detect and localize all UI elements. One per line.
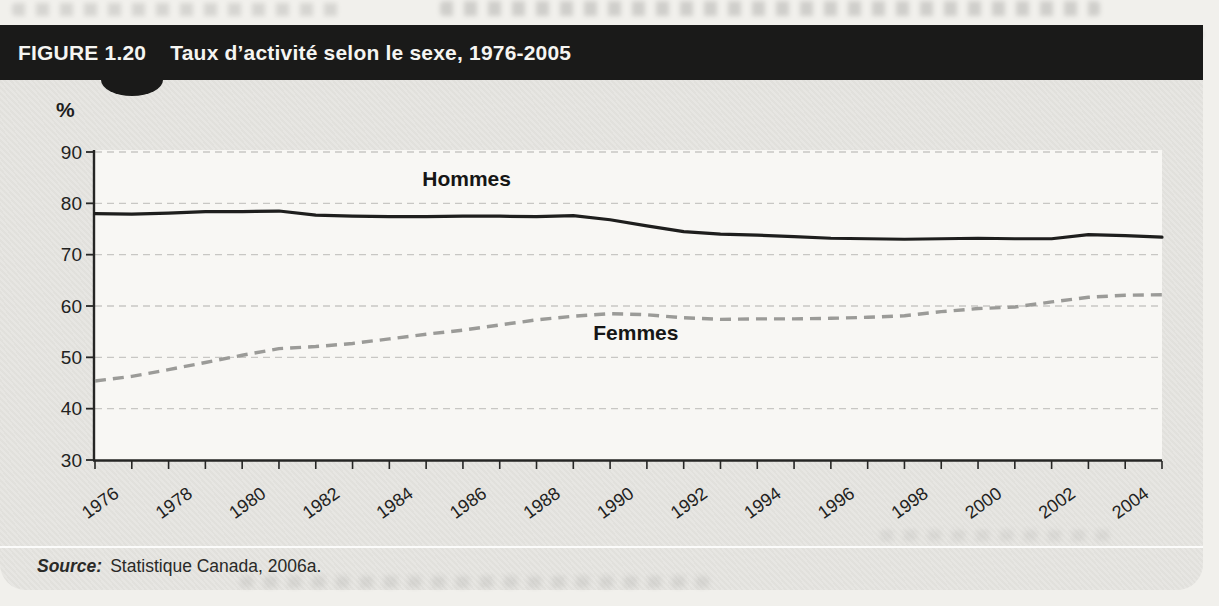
svg-text:1990: 1990	[593, 483, 637, 523]
svg-text:1980: 1980	[225, 483, 269, 523]
activity-rate-chart: 3040506070809019761978198019821984198619…	[0, 90, 1203, 530]
figure-header-bar: FIGURE 1.20 Taux d’activité selon le sex…	[0, 25, 1203, 80]
svg-text:2002: 2002	[1035, 483, 1079, 523]
scan-artifact	[12, 3, 342, 16]
panel-separator	[0, 546, 1203, 548]
svg-text:1982: 1982	[299, 483, 343, 523]
svg-text:1996: 1996	[814, 483, 858, 523]
figure-title: Taux d’activité selon le sexe, 1976-2005	[170, 41, 571, 65]
svg-text:Hommes: Hommes	[422, 167, 511, 190]
figure-number: FIGURE 1.20	[18, 41, 146, 65]
source-text: Statistique Canada, 2006a.	[110, 556, 321, 576]
svg-text:1998: 1998	[888, 483, 932, 523]
svg-text:40: 40	[61, 398, 82, 419]
svg-text:2004: 2004	[1108, 483, 1152, 523]
svg-text:Femmes: Femmes	[593, 321, 678, 344]
scanned-page: FIGURE 1.20 Taux d’activité selon le sex…	[0, 0, 1219, 606]
svg-text:1992: 1992	[667, 483, 711, 523]
svg-text:90: 90	[61, 142, 82, 163]
svg-text:1978: 1978	[152, 483, 196, 523]
svg-text:1988: 1988	[520, 483, 564, 523]
svg-text:50: 50	[61, 347, 82, 368]
svg-text:80: 80	[61, 193, 82, 214]
source-line: Source:Statistique Canada, 2006a.	[37, 556, 321, 577]
svg-text:30: 30	[61, 450, 82, 471]
svg-text:1994: 1994	[740, 483, 784, 523]
svg-text:1976: 1976	[78, 483, 122, 523]
svg-text:1986: 1986	[446, 483, 490, 523]
scan-artifact	[880, 530, 1120, 541]
svg-text:2000: 2000	[961, 483, 1005, 523]
svg-text:70: 70	[61, 244, 82, 265]
scan-artifact	[240, 576, 710, 588]
scan-artifact	[440, 1, 1100, 16]
figure-panel: FIGURE 1.20 Taux d’activité selon le sex…	[0, 25, 1203, 590]
source-label: Source:	[37, 556, 102, 576]
svg-text:60: 60	[61, 296, 82, 317]
y-axis-unit-label: %	[56, 98, 75, 122]
svg-text:1984: 1984	[373, 483, 417, 523]
